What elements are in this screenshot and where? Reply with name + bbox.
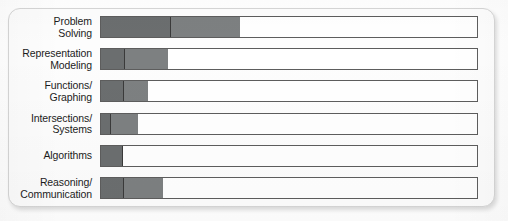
category-label: Functions/ Graphing — [8, 80, 92, 103]
bar-track — [100, 16, 478, 38]
chart-row: Intersections/ Systems — [0, 111, 508, 137]
bar-segment — [111, 114, 138, 134]
chart-row: Representation Modeling — [0, 46, 508, 72]
bar-segment — [101, 49, 125, 69]
chart-row: Functions/ Graphing — [0, 78, 508, 104]
bar-segment — [101, 81, 124, 101]
bar-segment — [124, 81, 148, 101]
bar-track — [100, 80, 478, 102]
bar-segment — [101, 146, 123, 166]
category-label: Reasoning/ Communication — [8, 177, 92, 200]
bar-segment — [101, 17, 171, 37]
bar-track — [100, 48, 478, 70]
stacked-bar-chart: Problem SolvingRepresentation ModelingFu… — [0, 0, 508, 221]
bar-track — [100, 145, 478, 167]
bar-segment — [171, 17, 240, 37]
category-label: Intersections/ Systems — [8, 112, 92, 135]
category-label: Algorithms — [8, 150, 92, 162]
category-label: Problem Solving — [8, 16, 92, 39]
chart-row: Reasoning/ Communication — [0, 175, 508, 201]
category-label: Representation Modeling — [8, 48, 92, 71]
bar-segment — [125, 49, 168, 69]
bar-track — [100, 177, 478, 199]
chart-screenshot: Problem SolvingRepresentation ModelingFu… — [0, 0, 508, 221]
bar-segment — [101, 178, 124, 198]
bar-segment — [124, 178, 163, 198]
chart-row: Problem Solving — [0, 14, 508, 40]
bar-track — [100, 113, 478, 135]
chart-row: Algorithms — [0, 143, 508, 169]
bar-segment — [101, 114, 111, 134]
